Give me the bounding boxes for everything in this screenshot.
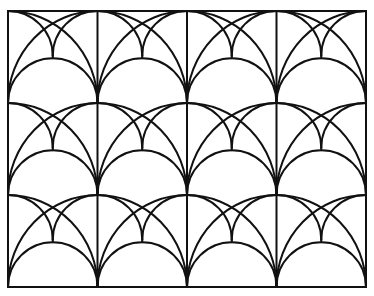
- bottom-arch: [187, 242, 277, 287]
- upper-right-arc: [53, 195, 98, 240]
- pattern-tile: [98, 195, 188, 287]
- upper-right-arc: [142, 103, 187, 148]
- scallop-pattern-figure: [0, 0, 374, 296]
- pattern-tile: [277, 11, 367, 103]
- upper-left-arc: [98, 103, 143, 148]
- upper-left-arc: [8, 103, 53, 148]
- upper-left-arc: [277, 195, 322, 240]
- pattern-tile: [187, 103, 277, 195]
- upper-left-arc: [187, 11, 232, 56]
- pattern-tile: [8, 103, 98, 195]
- bottom-arch: [187, 150, 277, 195]
- upper-left-arc: [277, 11, 322, 56]
- upper-right-arc: [142, 11, 187, 56]
- pattern-tile: [98, 103, 188, 195]
- bottom-arch: [277, 150, 367, 195]
- bottom-arch: [8, 150, 98, 195]
- pattern-tile: [187, 11, 277, 103]
- pattern-tile: [8, 11, 98, 103]
- bottom-arch: [277, 242, 367, 287]
- bottom-arch: [98, 150, 188, 195]
- bottom-arch: [187, 58, 277, 103]
- upper-right-arc: [321, 195, 366, 240]
- upper-left-arc: [98, 11, 143, 56]
- upper-right-arc: [321, 103, 366, 148]
- pattern-tile: [187, 195, 277, 287]
- pattern-tile: [277, 195, 367, 287]
- upper-left-arc: [8, 195, 53, 240]
- pattern-tile: [98, 11, 188, 103]
- upper-right-arc: [53, 11, 98, 56]
- upper-left-arc: [277, 103, 322, 148]
- bottom-arch: [8, 58, 98, 103]
- bottom-arch: [98, 58, 188, 103]
- bottom-arch: [277, 58, 367, 103]
- bottom-arch: [8, 242, 98, 287]
- upper-right-arc: [232, 11, 277, 56]
- bottom-arch: [98, 242, 188, 287]
- upper-right-arc: [53, 103, 98, 148]
- pattern-tile: [8, 195, 98, 287]
- upper-right-arc: [142, 195, 187, 240]
- upper-right-arc: [232, 195, 277, 240]
- pattern-tile: [277, 103, 367, 195]
- upper-left-arc: [187, 195, 232, 240]
- upper-right-arc: [321, 11, 366, 56]
- upper-left-arc: [98, 195, 143, 240]
- upper-right-arc: [232, 103, 277, 148]
- upper-left-arc: [8, 11, 53, 56]
- upper-left-arc: [187, 103, 232, 148]
